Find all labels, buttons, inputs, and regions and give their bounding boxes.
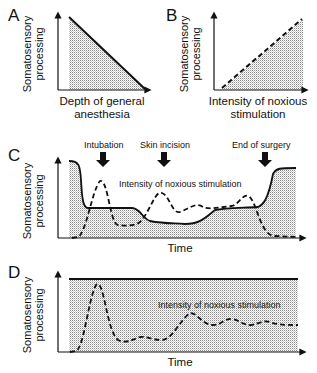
event-label-end-of-surgery: End of surgery — [232, 140, 291, 150]
panel-d-y-label-line2: processing — [33, 270, 45, 360]
panel-c-y-label-line1: Somatosensory — [21, 156, 33, 246]
panel-a-x-label-line2: anesthesia — [52, 108, 152, 121]
panel-c-annotation: Intensity of noxious stimulation — [119, 179, 242, 189]
panel-a-plot — [58, 15, 148, 90]
panel-b-x-label-line2: stimulation — [203, 108, 313, 121]
panel-d-annotation: Intensity of noxious stimulation — [158, 300, 281, 310]
panel-b-y-label-line1: Somatosensory — [178, 9, 190, 99]
panel-c-y-label-line2: processing — [33, 156, 45, 246]
panel-a-y-label-line2: processing — [33, 9, 45, 99]
skin-incision-arrow-icon — [157, 152, 171, 167]
panel-a-y-label-line1: Somatosensory — [21, 9, 33, 99]
panel-c-shaded-area — [69, 161, 296, 238]
panel-d-y-label-line1: Somatosensory — [21, 270, 33, 360]
panel-c-x-label: Time — [160, 242, 200, 255]
panel-b-y-label-line2: processing — [190, 9, 202, 99]
intubation-arrow-icon — [96, 152, 110, 167]
panel-c-letter: C — [8, 146, 20, 166]
panel-a-x-label-line1: Depth of general — [52, 95, 152, 108]
end-of-surgery-arrow-icon — [258, 152, 272, 167]
event-label-intubation: Intubation — [84, 140, 124, 150]
event-label-skin-incision: Skin incision — [140, 140, 190, 150]
panel-d-x-label: Time — [160, 356, 200, 369]
panel-b-x-label: Intensity of noxious stimulation — [203, 95, 313, 121]
panel-a-x-label: Depth of general anesthesia — [52, 95, 152, 121]
panel-b-letter: B — [166, 6, 177, 26]
panel-a-letter: A — [8, 6, 19, 26]
panel-c-plot — [58, 152, 303, 238]
panel-b-y-label: Somatosensory processing — [178, 9, 202, 99]
panel-d-letter: D — [8, 263, 20, 283]
panel-c-y-label: Somatosensory processing — [21, 156, 45, 246]
panel-a-y-label: Somatosensory processing — [21, 9, 45, 99]
panel-b-x-label-line1: Intensity of noxious — [203, 95, 313, 108]
panel-d-shaded-area — [69, 279, 298, 352]
panel-d-plot — [58, 274, 303, 352]
panel-d-y-label: Somatosensory processing — [21, 270, 45, 360]
panel-b-plot — [214, 15, 305, 90]
